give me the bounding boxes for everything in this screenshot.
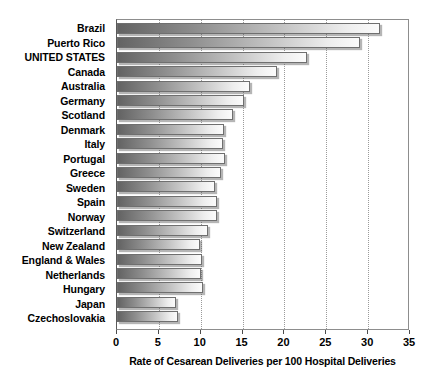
bar-row bbox=[117, 210, 408, 224]
category-axis-labels: BrazilPuerto RicoUNITED STATESCanadaAust… bbox=[0, 22, 110, 326]
x-tickmark bbox=[409, 330, 410, 334]
bar bbox=[117, 210, 217, 221]
bar-row bbox=[117, 297, 408, 311]
bar bbox=[117, 124, 224, 135]
bar bbox=[117, 297, 176, 308]
bar-row bbox=[117, 66, 408, 80]
bar-row bbox=[117, 282, 408, 296]
category-label: Canada bbox=[0, 66, 110, 80]
x-tickmark bbox=[200, 330, 201, 334]
bar-row bbox=[117, 95, 408, 109]
bar bbox=[117, 23, 380, 34]
bar-row bbox=[117, 23, 408, 37]
bar-row bbox=[117, 225, 408, 239]
bar-series bbox=[117, 23, 408, 325]
category-label: Switzerland bbox=[0, 225, 110, 239]
category-label: England & Wales bbox=[0, 254, 110, 268]
category-label: Scotland bbox=[0, 109, 110, 123]
bar bbox=[117, 138, 223, 149]
bar-row bbox=[117, 37, 408, 51]
category-label: Japan bbox=[0, 298, 110, 312]
x-tickmark bbox=[283, 330, 284, 334]
x-axis-title: Rate of Cesarean Deliveries per 100 Hosp… bbox=[116, 355, 409, 367]
bar-row bbox=[117, 109, 408, 123]
x-tick-label: 15 bbox=[235, 336, 247, 348]
category-label: Brazil bbox=[0, 22, 110, 36]
plot-area bbox=[116, 19, 409, 330]
bar bbox=[117, 52, 307, 63]
x-tick-label: 35 bbox=[403, 336, 415, 348]
category-label: Italy bbox=[0, 138, 110, 152]
bar bbox=[117, 153, 225, 164]
bar-row bbox=[117, 239, 408, 253]
x-axis-tickmarks bbox=[116, 330, 409, 335]
bar bbox=[117, 109, 233, 120]
bar-row bbox=[117, 153, 408, 167]
bar-row bbox=[117, 81, 408, 95]
category-label: Norway bbox=[0, 211, 110, 225]
bar bbox=[117, 225, 208, 236]
bar-row bbox=[117, 254, 408, 268]
category-label: Czechoslovakia bbox=[0, 312, 110, 326]
x-tick-label: 30 bbox=[361, 336, 373, 348]
x-tick-label: 20 bbox=[277, 336, 289, 348]
bar bbox=[117, 282, 203, 293]
bar bbox=[117, 239, 200, 250]
bar bbox=[117, 95, 244, 106]
bar bbox=[117, 181, 215, 192]
bar bbox=[117, 167, 221, 178]
bar bbox=[117, 254, 202, 265]
bar-row bbox=[117, 311, 408, 325]
x-tickmark bbox=[242, 330, 243, 334]
bar bbox=[117, 66, 277, 77]
category-label: Denmark bbox=[0, 124, 110, 138]
x-tick-label: 5 bbox=[155, 336, 161, 348]
bar bbox=[117, 81, 250, 92]
category-label: Spain bbox=[0, 196, 110, 210]
bar-row bbox=[117, 52, 408, 66]
bar-row bbox=[117, 138, 408, 152]
bar bbox=[117, 311, 178, 322]
x-tick-label: 10 bbox=[194, 336, 206, 348]
bar bbox=[117, 268, 201, 279]
x-tick-label: 25 bbox=[319, 336, 331, 348]
bar-row bbox=[117, 167, 408, 181]
bar-row bbox=[117, 124, 408, 138]
x-axis-tick-labels: 05101520253035 bbox=[116, 336, 409, 352]
x-tickmark bbox=[158, 330, 159, 334]
category-label: UNITED STATES bbox=[0, 51, 110, 65]
category-label: Sweden bbox=[0, 182, 110, 196]
bar bbox=[117, 196, 217, 207]
bar-row bbox=[117, 181, 408, 195]
bar bbox=[117, 37, 360, 48]
category-label: Australia bbox=[0, 80, 110, 94]
category-label: New Zealand bbox=[0, 240, 110, 254]
category-label: Germany bbox=[0, 95, 110, 109]
category-label: Hungary bbox=[0, 283, 110, 297]
x-tickmark bbox=[325, 330, 326, 334]
x-tick-label: 0 bbox=[113, 336, 119, 348]
x-tickmark bbox=[367, 330, 368, 334]
bar-row bbox=[117, 268, 408, 282]
bar-row bbox=[117, 196, 408, 210]
cesarean-rate-bar-chart: BrazilPuerto RicoUNITED STATESCanadaAust… bbox=[0, 0, 424, 386]
category-label: Portugal bbox=[0, 153, 110, 167]
x-tickmark bbox=[116, 330, 117, 334]
category-label: Puerto Rico bbox=[0, 37, 110, 51]
category-label: Greece bbox=[0, 167, 110, 181]
category-label: Netherlands bbox=[0, 269, 110, 283]
